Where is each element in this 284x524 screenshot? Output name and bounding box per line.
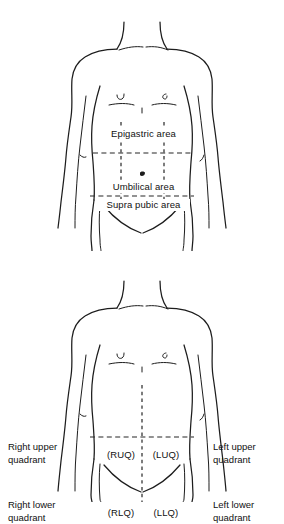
neck-right-outline xyxy=(160,22,167,49)
label-right-upper-quadrant: Right upper quadrant xyxy=(8,441,57,466)
navel-mark xyxy=(140,172,145,177)
inguinal-crease-left xyxy=(104,465,141,492)
right-elbow-mark xyxy=(200,155,204,161)
right-hip-thigh-outline xyxy=(190,459,193,502)
label-right-lower-quadrant: Right lower quadrant xyxy=(8,499,56,524)
left-hip-thigh-outline xyxy=(91,200,94,251)
label-left-upper-quadrant-line1: Left upper xyxy=(213,441,256,454)
left-arm-inner xyxy=(75,355,86,491)
label-llq: (LLQ) xyxy=(146,507,186,519)
left-nipple-icon xyxy=(117,353,124,358)
abdominal-regions-drawing xyxy=(0,0,284,251)
right-thigh-inner xyxy=(183,205,185,251)
clavicle-right xyxy=(146,47,168,50)
left-elbow-mark xyxy=(80,155,86,157)
clavicle-left xyxy=(119,306,143,309)
left-elbow-mark xyxy=(80,414,86,416)
left-arm-inner xyxy=(75,96,86,228)
label-umbilical-area: Umbilical area xyxy=(104,181,183,193)
label-left-lower-quadrant-line2: quadrant xyxy=(213,512,254,524)
right-nipple-icon xyxy=(163,353,167,358)
label-right-upper-quadrant-line2: quadrant xyxy=(8,454,57,467)
right-arm-inner xyxy=(198,355,209,491)
left-hip-thigh-outline xyxy=(91,459,94,502)
label-ruq: (RUQ) xyxy=(101,449,141,461)
label-left-upper-quadrant: Left upper quadrant xyxy=(213,441,256,466)
right-nipple-icon xyxy=(163,94,167,99)
neck-left-outline xyxy=(117,281,124,308)
clavicle-right xyxy=(146,306,168,309)
neck-left-outline xyxy=(117,22,124,49)
label-epigastric-area: Epigastric area xyxy=(106,128,181,140)
torso-left-side xyxy=(92,345,100,459)
right-elbow-mark xyxy=(200,414,204,420)
label-rlq: (RLQ) xyxy=(101,507,141,519)
label-supra-pubic-area: Supra pubic area xyxy=(97,199,190,211)
left-thigh-inner xyxy=(99,205,101,251)
torso-right-side xyxy=(184,345,192,459)
inguinal-crease-right xyxy=(143,465,180,492)
left-thigh-inner xyxy=(99,464,101,502)
left-pectoral-line xyxy=(109,363,134,365)
label-right-lower-quadrant-line1: Right lower xyxy=(8,499,56,512)
label-right-lower-quadrant-line2: quadrant xyxy=(8,512,56,524)
torso-right-side xyxy=(184,86,192,200)
label-left-upper-quadrant-line2: quadrant xyxy=(213,454,256,467)
right-pectoral-line xyxy=(152,104,176,106)
right-arm-inner xyxy=(198,96,209,228)
abdominal-quadrants-figure: (RUQ) (LUQ) (RLQ) (LLQ) Right upper quad… xyxy=(0,251,284,502)
right-thigh-inner xyxy=(183,464,185,502)
left-shoulder-arm-outline xyxy=(58,308,117,491)
label-left-lower-quadrant-line1: Left lower xyxy=(213,499,254,512)
torso-left-side xyxy=(92,86,100,200)
abdominal-regions-figure: Epigastric area Umbilical area Supra pub… xyxy=(0,0,284,251)
left-pectoral-line xyxy=(109,104,134,106)
clavicle-left xyxy=(119,47,143,50)
left-nipple-icon xyxy=(117,94,124,99)
neck-right-outline xyxy=(160,281,167,308)
label-luq: (LUQ) xyxy=(146,449,186,461)
label-left-lower-quadrant: Left lower quadrant xyxy=(213,499,254,524)
label-right-upper-quadrant-line1: Right upper xyxy=(8,441,57,454)
right-hip-thigh-outline xyxy=(190,200,193,251)
right-pectoral-line xyxy=(152,363,176,365)
